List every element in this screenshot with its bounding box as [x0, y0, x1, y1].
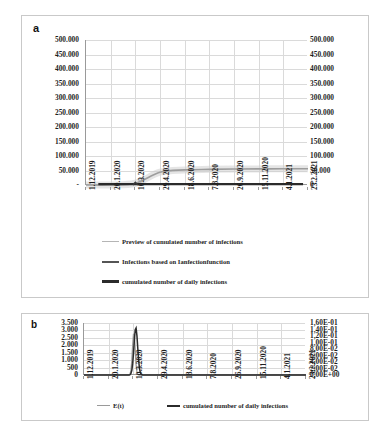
- panel-a-y-right-tick: 450.000: [310, 51, 334, 58]
- axis-tick-mark: [231, 376, 232, 379]
- panel-a-y-left-tick: -: [77, 181, 79, 188]
- panel-a-y-left-tick: 350.000: [55, 80, 79, 87]
- legend-swatch-icon: [102, 280, 119, 283]
- axis-tick-mark: [132, 376, 133, 379]
- panel-a-y-left-tick: 150.000: [55, 138, 79, 145]
- panel-b-x-tick: 15.11.2020: [259, 346, 268, 379]
- axis-tick-mark: [110, 187, 111, 190]
- panel-a-x-tick: 10.3.2020: [137, 160, 146, 190]
- panel-b-x-tick: 23.2.2021: [308, 349, 317, 379]
- panel-a-x-tick: 4.1.2021: [285, 164, 294, 190]
- legend-label: cumulated number of daily infections: [183, 402, 288, 409]
- panel-a-y-right-tick: 350.000: [310, 80, 334, 87]
- panel-b-legend-item[interactable]: cumulated number of daily infections: [167, 402, 288, 409]
- legend-label: E(t): [113, 402, 124, 409]
- legend-label: cumulated number of daily infections: [122, 278, 227, 285]
- panel-a-y-right-tick: 300.000: [310, 94, 334, 101]
- panel-a-letter: a: [33, 22, 39, 34]
- chart-panel-a: a 500.000450.000400.000350.000300.000250…: [21, 15, 369, 298]
- panel-b-letter: b: [31, 319, 37, 330]
- panel-a-y-left-tick: 50.000: [59, 167, 79, 174]
- axis-tick-mark: [258, 187, 259, 190]
- panel-a-x-tick: 26.9.2020: [236, 160, 245, 190]
- panel-a-x-tick: 23.2.2021: [310, 160, 319, 190]
- legend-label: Infections based on Ianfectionfunction: [122, 258, 230, 265]
- axis-tick-mark: [206, 376, 207, 379]
- panel-a-y-left-tick: 300.000: [55, 94, 79, 101]
- panel-b-x-tick: 18.6.2020: [185, 349, 194, 379]
- panel-a-y-right-tick: 400.000: [310, 65, 334, 72]
- axis-tick-mark: [157, 376, 158, 379]
- axis-tick-mark: [159, 187, 160, 190]
- legend-swatch-icon: [97, 405, 110, 406]
- legend-label: Preview of cumulated number of infection…: [122, 238, 243, 245]
- axis-tick-mark: [184, 187, 185, 190]
- axis-tick-mark: [182, 376, 183, 379]
- panel-b-legend-item[interactable]: E(t): [97, 402, 124, 409]
- axis-tick-mark: [282, 187, 283, 190]
- panel-a-x-tick: 1.12.2019: [88, 160, 97, 190]
- axis-tick-mark: [256, 376, 257, 379]
- panel-b-x-tick: 26.9.2020: [234, 349, 243, 379]
- axis-tick-mark: [108, 376, 109, 379]
- axis-tick-mark: [305, 376, 306, 379]
- legend-swatch-icon: [167, 405, 180, 407]
- legend-swatch-icon: [102, 261, 119, 263]
- panel-a-y-right-tick: 150.000: [310, 138, 334, 145]
- axis-tick-mark: [83, 376, 84, 379]
- panel-a-y-left-tick: 500.000: [55, 36, 79, 43]
- panel-a-y-left-tick: 450.000: [55, 51, 79, 58]
- axis-tick-mark: [134, 187, 135, 190]
- panel-a-y-right-tick: 250.000: [310, 109, 334, 116]
- legend-swatch-icon: [102, 241, 119, 242]
- panel-a-legend-item[interactable]: cumulated number of daily infections: [102, 278, 227, 285]
- panel-b-y-left-tick: 0: [74, 371, 78, 378]
- panel-a-x-tick: 18.6.2020: [187, 160, 196, 190]
- panel-a-x-tick: 15.11.2020: [261, 157, 270, 190]
- panel-a-y-right-tick: 200.000: [310, 123, 334, 130]
- panel-a-x-tick: 29.4.2020: [162, 160, 171, 190]
- panel-b-x-tick: 1.12.2019: [86, 349, 95, 379]
- panel-b-x-tick: 20.1.2020: [111, 349, 120, 379]
- axis-tick-mark: [280, 376, 281, 379]
- panel-b-x-tick: 10.3.2020: [135, 349, 144, 379]
- panel-a-legend-item[interactable]: Preview of cumulated number of infection…: [102, 238, 243, 245]
- panel-a-y-left-tick: 400.000: [55, 65, 79, 72]
- chart-panel-b: b 3.5003.0002.5002.0001.5001.0005000 1,6…: [21, 313, 369, 421]
- axis-tick-mark: [85, 187, 86, 190]
- panel-a-y-left-tick: 100.000: [55, 152, 79, 159]
- panel-a-x-tick: 20.1.2020: [113, 160, 122, 190]
- panel-b-x-tick: 4.1.2021: [283, 353, 292, 379]
- axis-tick-mark: [233, 187, 234, 190]
- panel-a-x-tick: 7.8.2020: [211, 164, 220, 190]
- panel-a-y-left-tick: 200.000: [55, 123, 79, 130]
- panel-b-x-tick: 7.8.2020: [209, 353, 218, 379]
- axis-tick-mark: [307, 187, 308, 190]
- panel-a-y-right-tick: 100.000: [310, 152, 334, 159]
- panel-a-y-right-tick: 500.000: [310, 36, 334, 43]
- panel-a-legend-item[interactable]: Infections based on Ianfectionfunction: [102, 258, 230, 265]
- panel-a-y-left-tick: 250.000: [55, 109, 79, 116]
- panel-b-x-tick: 29.4.2020: [160, 349, 169, 379]
- axis-tick-mark: [208, 187, 209, 190]
